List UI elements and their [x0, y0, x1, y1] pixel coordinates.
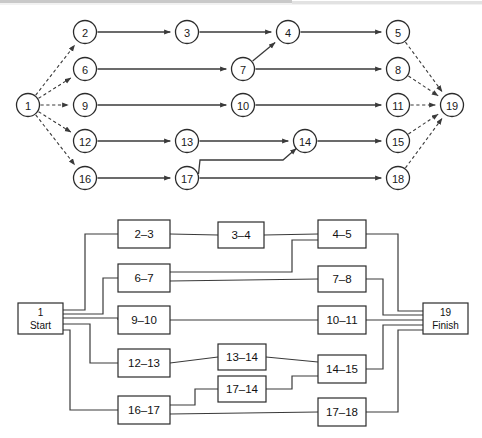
node-label: 2 [82, 27, 88, 39]
node-10[interactable]: 10 [232, 94, 255, 117]
node-label: 9 [82, 100, 88, 112]
box-label: 19 [440, 307, 452, 318]
link-b17_18-to-finish [366, 330, 423, 412]
box-label: 10–11 [326, 314, 357, 326]
node-label: 5 [395, 27, 401, 39]
node-label: 15 [392, 136, 404, 148]
network-diagram-figure: 12345678910111213141516171819 1Start2–33… [0, 0, 482, 438]
precedence-box-network: 1Start2–33–44–56–77–89–1010–1112–1313–14… [18, 220, 468, 426]
node-label: 3 [184, 27, 190, 39]
box-label: 16–17 [128, 404, 160, 416]
link-start-to-b2_3 [63, 234, 118, 310]
box-label: 6–7 [134, 272, 153, 284]
link-start-to-b6_7 [63, 278, 118, 314]
link-b3_4-to-b4_5 [264, 234, 318, 235]
link-b16_17-to-b17_14 [170, 389, 218, 405]
box-b7_8[interactable]: 7–8 [318, 266, 366, 292]
node-13[interactable]: 13 [176, 130, 199, 153]
node-label: 14 [299, 136, 311, 148]
node-17[interactable]: 17 [176, 167, 199, 190]
node-7[interactable]: 7 [232, 58, 255, 81]
link-start-to-b12_13 [63, 324, 118, 363]
link-b4_5-to-finish [366, 234, 423, 311]
box-b17_14[interactable]: 17–14 [218, 376, 266, 402]
box-b12_13[interactable]: 12–13 [118, 349, 170, 377]
node-label: 11 [392, 100, 403, 112]
edge-15-19 [408, 114, 438, 134]
box-b6_7[interactable]: 6–7 [118, 264, 170, 292]
box-label: 2–3 [134, 228, 153, 240]
node-11[interactable]: 11 [387, 94, 410, 117]
box-b3_4[interactable]: 3–4 [218, 222, 264, 248]
node-label: 4 [285, 27, 291, 39]
box-b2_3[interactable]: 2–3 [118, 220, 170, 248]
box-label: 4–5 [332, 228, 351, 240]
box-label: 17–18 [326, 406, 358, 418]
box-start[interactable]: 1Start [18, 303, 63, 334]
box-b13_14[interactable]: 13–14 [218, 344, 266, 370]
box-label: Start [30, 320, 51, 331]
node-label: 18 [392, 173, 404, 185]
node-label: 1 [25, 100, 31, 112]
box-b9_10[interactable]: 9–10 [118, 306, 170, 334]
link-b16_17-to-b17_18 [170, 412, 318, 414]
node-4[interactable]: 4 [277, 21, 300, 44]
box-b16_17[interactable]: 16–17 [118, 396, 170, 424]
node-label: 12 [79, 136, 91, 148]
node-label: 19 [446, 100, 458, 112]
box-label: 9–10 [131, 314, 157, 326]
edge-5-19 [405, 42, 442, 92]
node-label: 8 [395, 64, 401, 76]
node-18[interactable]: 18 [387, 167, 410, 190]
activity-on-arrow-network: 12345678910111213141516171819 [17, 21, 464, 190]
box-b10_11[interactable]: 10–11 [318, 306, 366, 334]
node-8[interactable]: 8 [387, 58, 410, 81]
node-label: 10 [237, 100, 249, 112]
edge-1-12 [39, 112, 71, 132]
box-label: 12–13 [128, 357, 160, 369]
link-b7_8-to-finish [366, 279, 423, 315]
node-label: 7 [240, 64, 246, 76]
node-14[interactable]: 14 [294, 130, 317, 153]
link-b17_14-to-b14_15 [266, 376, 318, 389]
box-b4_5[interactable]: 4–5 [318, 220, 366, 248]
link-b6_7-to-b7_8 [170, 279, 318, 281]
node-16[interactable]: 16 [74, 167, 97, 190]
node-12[interactable]: 12 [74, 130, 97, 153]
node-9[interactable]: 9 [74, 94, 97, 117]
edge-7-4 [253, 43, 275, 61]
box-label: 3–4 [231, 229, 251, 241]
node-label: 13 [181, 136, 193, 148]
box-label: 17–14 [226, 383, 259, 395]
node-19[interactable]: 19 [441, 94, 464, 117]
node-5[interactable]: 5 [387, 21, 410, 44]
edge-1-6 [39, 78, 71, 98]
node-1[interactable]: 1 [17, 94, 40, 117]
box-label: Finish [432, 320, 459, 331]
node-label: 17 [181, 173, 193, 185]
link-b14_15-to-finish [366, 325, 423, 369]
node-label: 16 [79, 173, 91, 185]
box-finish[interactable]: 19Finish [423, 303, 468, 334]
scan-edge-band [0, 0, 482, 5]
node-label: 6 [82, 64, 88, 76]
figure-canvas: 12345678910111213141516171819 1Start2–33… [0, 0, 482, 438]
edge-18-19 [405, 118, 442, 168]
network-nodes: 12345678910111213141516171819 [17, 21, 464, 190]
node-3[interactable]: 3 [176, 21, 199, 44]
link-b13_14-to-b14_15 [266, 357, 318, 362]
edge-8-19 [408, 76, 438, 96]
edge-17-14 [199, 149, 297, 174]
link-b12_13-to-b13_14 [170, 357, 218, 363]
link-b2_3-to-b3_4 [170, 234, 218, 235]
box-label: 1 [38, 307, 44, 318]
node-6[interactable]: 6 [74, 58, 97, 81]
box-b17_18[interactable]: 17–18 [318, 398, 366, 426]
box-label: 7–8 [332, 273, 351, 285]
box-label: 14–15 [326, 363, 358, 375]
node-15[interactable]: 15 [387, 130, 410, 153]
link-start-to-b9_10 [63, 318, 118, 320]
node-2[interactable]: 2 [74, 21, 97, 44]
box-label: 13–14 [226, 351, 259, 363]
box-b14_15[interactable]: 14–15 [318, 355, 366, 383]
